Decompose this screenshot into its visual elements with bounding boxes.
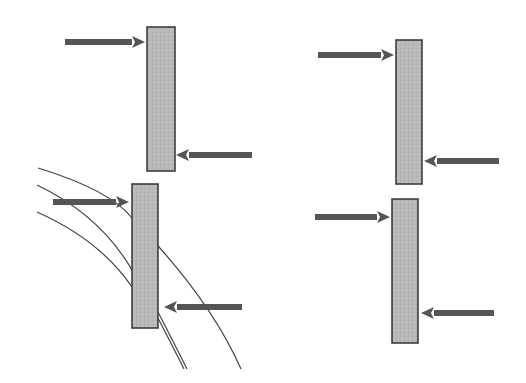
- force-arrows: [53, 36, 499, 319]
- arrow-right-icon: [318, 49, 394, 61]
- bar-bottom-left: [132, 184, 158, 328]
- field-line-bottom-left-2: [37, 212, 184, 369]
- force-diagram: [0, 0, 526, 383]
- arrow-right-icon: [65, 36, 145, 48]
- bar-top-left: [147, 27, 175, 171]
- bars: [132, 27, 422, 343]
- arrow-left-icon: [176, 149, 252, 161]
- arrow-left-icon: [424, 155, 499, 167]
- bar-top-right: [396, 40, 422, 184]
- arrow-right-icon: [315, 211, 390, 223]
- arrow-right-icon: [53, 196, 129, 208]
- field-line-bottom-left-1: [37, 185, 187, 369]
- arrow-left-icon: [421, 307, 494, 319]
- bar-bottom-right: [392, 199, 418, 343]
